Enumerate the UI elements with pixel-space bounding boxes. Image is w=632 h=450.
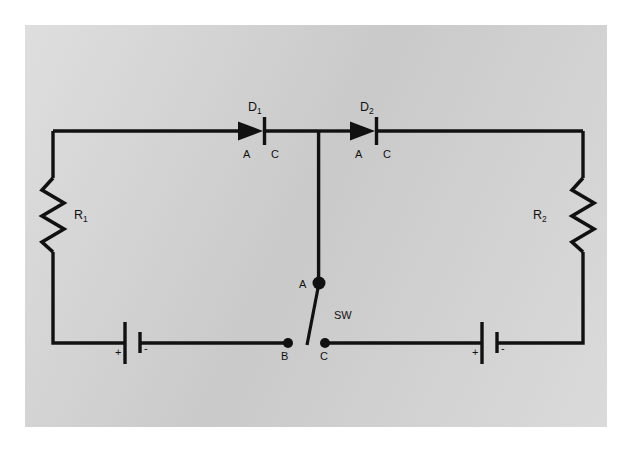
battery-right-positive-label: +	[472, 346, 478, 358]
switch-terminal-c-label: C	[320, 350, 328, 362]
battery-right-negative-label: -	[501, 342, 505, 354]
diode1-anode-label: A	[243, 148, 251, 160]
diode2-anode-label: A	[355, 148, 363, 160]
switch-label: SW	[334, 309, 352, 321]
diode1-anode-triangle	[238, 122, 263, 141]
diode2-cathode-label: C	[383, 148, 391, 160]
switch-terminal-b-label: B	[281, 350, 288, 362]
wire-battery-right-to-corner	[497, 340, 583, 343]
resistor1-label: R	[74, 208, 83, 222]
wire-bottom-left-to-battery	[53, 340, 125, 343]
resistor2-zigzag	[572, 178, 594, 252]
diode2-label: D	[360, 100, 369, 114]
battery-left-positive-label: +	[115, 346, 121, 358]
switch-blade[interactable]	[307, 283, 319, 345]
switch-terminal-b-dot	[283, 338, 293, 348]
diode1-cathode-label: C	[271, 148, 279, 160]
circuit-canvas: D 1 A C D 2 A C R 1 R 2 + - + - A B C SW	[0, 0, 632, 450]
switch-terminal-a-label: A	[299, 278, 307, 290]
diode2-anode-triangle	[350, 122, 375, 141]
diode2-subscript: 2	[369, 106, 374, 116]
resistor1-zigzag	[42, 178, 64, 252]
battery-left-negative-label: -	[144, 342, 148, 354]
diagram-page: D 1 A C D 2 A C R 1 R 2 + - + - A B C SW	[0, 0, 632, 450]
resistor2-label: R	[533, 208, 542, 222]
resistor1-subscript: 1	[83, 214, 88, 224]
resistor2-subscript: 2	[542, 214, 547, 224]
diode1-label: D	[248, 100, 257, 114]
diode1-subscript: 1	[257, 106, 262, 116]
